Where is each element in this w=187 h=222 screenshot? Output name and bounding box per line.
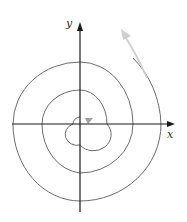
spiral-curve (13, 58, 161, 201)
y-axis-arrowhead (77, 22, 83, 31)
spiral-diagram: x y (0, 0, 187, 222)
outer-direction-arrow (121, 29, 147, 78)
x-axis-arrowhead (167, 121, 175, 127)
x-axis (12, 121, 175, 127)
y-axis-label: y (65, 17, 73, 30)
center-direction-arrow (85, 118, 93, 124)
x-axis-label: x (167, 128, 174, 141)
